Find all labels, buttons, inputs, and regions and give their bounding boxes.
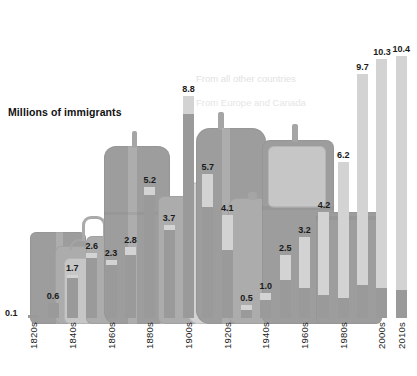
- bar-segment-other-countries: [125, 247, 136, 255]
- bar-value-1980s: 6.2: [337, 151, 350, 160]
- bar-stack-1870s: [125, 247, 136, 318]
- bar-segment-europe-canada: [164, 230, 175, 318]
- x-tick-1960s: 1960s: [300, 322, 310, 349]
- bar-segment-other-countries: [202, 174, 213, 207]
- bar-segment-other-countries: [144, 187, 155, 195]
- bar-segment-other-countries: [338, 162, 349, 298]
- bar-2000s: 10.3: [376, 59, 387, 318]
- bar-value-2010s: 10.4: [393, 45, 411, 54]
- x-tick-1820s: 1820s: [29, 322, 39, 349]
- bar-segment-europe-canada: [396, 290, 407, 318]
- bar-segment-europe-canada: [376, 288, 387, 318]
- bar-segment-europe-canada: [299, 288, 310, 318]
- x-tick-1940s: 1940s: [261, 322, 271, 349]
- bar-value-1970s: 4.2: [318, 201, 331, 210]
- bar-segment-europe-canada: [67, 278, 78, 318]
- bar-segment-europe-canada: [28, 315, 39, 318]
- bar-segment-europe-canada: [183, 114, 194, 318]
- bar-value-2000s: 10.3: [373, 48, 391, 57]
- bar-stack-1880s: [144, 187, 155, 318]
- bar-value-1910s: 5.7: [202, 163, 215, 172]
- x-tick-1920s: 1920s: [223, 322, 233, 349]
- bar-segment-europe-canada: [357, 285, 368, 318]
- bar-segment-europe-canada: [338, 298, 349, 318]
- bar-1960s: 3.2: [299, 237, 310, 318]
- legend-item-europe-canada: From Europe and Canada: [196, 98, 306, 108]
- legend-item-other-countries: From all other countries: [196, 74, 306, 84]
- bar-value-1990s: 9.7: [356, 63, 369, 72]
- bar-stack-2010s: [396, 56, 407, 318]
- x-tick-1980s: 1980s: [339, 322, 349, 349]
- bar-1910s: 5.7: [202, 174, 213, 318]
- bar-1840s: 1.7: [67, 275, 78, 318]
- bar-segment-europe-canada: [241, 310, 252, 318]
- bar-stack-1850s: [86, 253, 97, 319]
- bar-1870s: 2.8: [125, 247, 136, 318]
- bar-1860s: 2.3: [106, 260, 117, 318]
- bar-segment-europe-canada: [260, 300, 271, 318]
- bar-value-1830s: 0.6: [47, 292, 60, 301]
- bar-segment-europe-canada: [125, 255, 136, 318]
- bar-stack-1930s: [241, 305, 252, 318]
- bar-stack-1920s: [222, 215, 233, 318]
- bar-stack-1960s: [299, 237, 310, 318]
- x-tick-1900s: 1900s: [184, 322, 194, 349]
- bar-stack-1900s: [183, 96, 194, 318]
- bar-2010s: 10.4: [396, 56, 407, 318]
- bar-segment-europe-canada: [106, 265, 117, 318]
- bar-value-1820s: 0.1: [5, 309, 18, 318]
- chart-axis-title: Millions of immigrants: [8, 106, 122, 118]
- bar-stack-1890s: [164, 225, 175, 318]
- bar-segment-europe-canada: [222, 250, 233, 318]
- bar-segment-europe-canada: [318, 295, 329, 318]
- bar-value-1900s: 8.8: [182, 85, 195, 94]
- chart-legend: From all other countries From Europe and…: [196, 74, 306, 121]
- bar-segment-europe-canada: [86, 258, 97, 318]
- bar-stack-1820s: [28, 315, 39, 318]
- bar-value-1880s: 5.2: [144, 176, 157, 185]
- bar-1990s: 9.7: [357, 74, 368, 318]
- bar-stack-1980s: [338, 162, 349, 318]
- bar-segment-other-countries: [222, 215, 233, 250]
- bar-value-1860s: 2.3: [105, 249, 118, 258]
- bar-1920s: 4.1: [222, 215, 233, 318]
- bar-chart: Millions of immigrants From all other co…: [0, 0, 417, 376]
- x-tick-2010s: 2010s: [397, 322, 407, 349]
- bar-stack-1990s: [357, 74, 368, 318]
- x-tick-1880s: 1880s: [145, 322, 155, 349]
- bar-value-1940s: 1.0: [260, 282, 273, 291]
- bar-value-1850s: 2.6: [85, 242, 98, 251]
- bar-1820s: [28, 315, 39, 318]
- bar-segment-europe-canada: [280, 280, 291, 318]
- bar-1950s: 2.5: [280, 255, 291, 318]
- x-tick-1840s: 1840s: [68, 322, 78, 349]
- bar-segment-europe-canada: [144, 195, 155, 318]
- bar-segment-other-countries: [396, 56, 407, 290]
- bar-segment-europe-canada: [48, 303, 59, 318]
- bar-segment-other-countries: [376, 59, 387, 288]
- bar-segment-other-countries: [183, 96, 194, 114]
- bar-1900s: 8.8: [183, 96, 194, 318]
- bar-segment-other-countries: [260, 293, 271, 301]
- bar-stack-1940s: [260, 293, 271, 318]
- bar-value-1960s: 3.2: [298, 226, 311, 235]
- bar-1880s: 5.2: [144, 187, 155, 318]
- bar-value-1870s: 2.8: [124, 236, 137, 245]
- bar-stack-1840s: [67, 275, 78, 318]
- bar-value-1840s: 1.7: [66, 264, 79, 273]
- bar-segment-other-countries: [299, 237, 310, 287]
- bar-stack-1830s: [48, 303, 59, 318]
- bar-1830s: 0.6: [48, 303, 59, 318]
- bar-1890s: 3.7: [164, 225, 175, 318]
- bar-segment-other-countries: [357, 74, 368, 286]
- bar-segment-other-countries: [318, 212, 329, 295]
- bar-segment-other-countries: [280, 255, 291, 280]
- bar-1970s: 4.2: [318, 212, 329, 318]
- bar-value-1920s: 4.1: [221, 204, 234, 213]
- bar-1940s: 1.0: [260, 293, 271, 318]
- x-tick-1860s: 1860s: [107, 322, 117, 349]
- bar-segment-europe-canada: [202, 207, 213, 318]
- x-tick-2000s: 2000s: [377, 322, 387, 349]
- bar-stack-1860s: [106, 260, 117, 318]
- bar-stack-1950s: [280, 255, 291, 318]
